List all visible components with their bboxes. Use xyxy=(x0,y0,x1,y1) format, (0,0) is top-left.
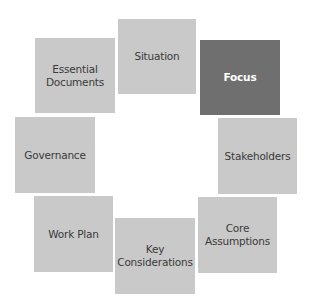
node-label: Governance xyxy=(24,149,85,162)
node-situation: Situation xyxy=(118,19,196,94)
node-stakeholders: Stakeholders xyxy=(218,118,297,194)
node-label: Key Considerations xyxy=(117,243,192,269)
node-label: Stakeholders xyxy=(225,150,291,163)
node-governance: Governance xyxy=(15,117,95,193)
node-work-plan: Work Plan xyxy=(34,196,113,272)
node-core-assumptions: Core Assumptions xyxy=(198,197,277,273)
node-key-considerations: Key Considerations xyxy=(115,218,195,294)
node-essential-documents: Essential Documents xyxy=(35,38,115,113)
node-label: Core Assumptions xyxy=(205,222,270,248)
node-label: Focus xyxy=(224,71,257,84)
node-label: Work Plan xyxy=(48,228,98,241)
node-label: Situation xyxy=(134,50,179,63)
node-label: Essential Documents xyxy=(46,63,104,89)
node-focus: Focus xyxy=(200,40,280,115)
